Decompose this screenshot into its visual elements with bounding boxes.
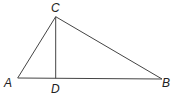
label-c: C bbox=[51, 1, 60, 15]
label-b: B bbox=[162, 76, 170, 90]
triangle-figure: C A D B bbox=[0, 0, 176, 97]
label-d: D bbox=[51, 82, 60, 96]
geometry-diagram: C A D B bbox=[0, 0, 176, 97]
segment-cb bbox=[56, 17, 162, 79]
label-a: A bbox=[3, 76, 12, 90]
segment-ab bbox=[18, 78, 162, 79]
segment-ac bbox=[18, 17, 56, 78]
